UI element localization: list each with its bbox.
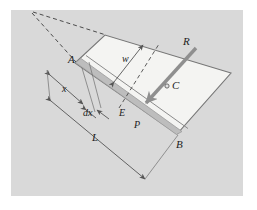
label-corner-a: A [68,54,75,65]
dimension-x [50,75,83,104]
label-element-width-dx: dx [83,108,92,118]
diagram-artwork [0,0,257,210]
label-width-w: w [122,54,129,64]
label-distance-x: x [62,84,66,94]
figure-container: A B C R E P w x dx L [0,0,257,210]
inclined-plate [75,35,231,134]
label-element-e: E [119,108,125,118]
centroid-point-c [165,84,169,88]
label-resultant-r: R [183,36,190,47]
label-strip-p: P [134,120,140,130]
label-length-l: L [92,132,98,143]
label-corner-b: B [176,139,183,150]
label-centroid-c: C [172,80,179,91]
